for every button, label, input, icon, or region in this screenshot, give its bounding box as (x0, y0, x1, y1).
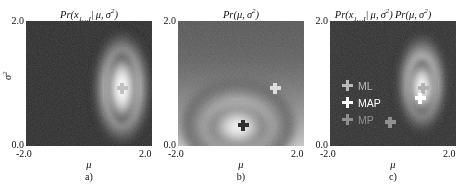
panel-c-xtick-max: 2.0 (443, 148, 456, 159)
panel-b-xtick-max: 2.0 (291, 148, 304, 159)
panel-a-x-axis-label: μ (26, 159, 152, 170)
panel-c-x-axis-label: μ (330, 159, 456, 170)
panel-a-xtick-min: -2.0 (16, 148, 32, 159)
legend-item-ml: ML (342, 77, 381, 94)
legend-item-mp: MP (342, 111, 381, 128)
legend-ml-plus-icon (342, 80, 353, 91)
panel-a-title: Pr(x1…I| μ, σ2) (6, 3, 172, 19)
legend-ml-label: ML (358, 80, 373, 92)
legend: ML MAP MP (342, 77, 381, 128)
legend-map-label: MAP (358, 97, 381, 109)
panel-a-density-field (26, 21, 152, 146)
panel-b-x-axis-label: μ (178, 159, 304, 170)
panel-a-caption: a) (26, 171, 152, 182)
panel-b-caption: b) (178, 171, 304, 182)
panel-a-y-axis-label: σ2 (1, 72, 13, 80)
panel-a-xtick-max: 2.0 (139, 148, 152, 159)
panel-c-caption: c) (330, 171, 456, 182)
panel-a-ytick-max: 2.0 (0, 15, 24, 26)
legend-mp-label: MP (358, 114, 374, 126)
panel-c-posterior-heatmap: ML MAP MP (330, 21, 456, 146)
legend-map-plus-icon (342, 97, 353, 108)
panel-c-xtick-min: -2.0 (320, 148, 336, 159)
figure-root: Pr(x1…I| μ, σ2) (0, 0, 468, 185)
legend-mp-plus-icon (342, 114, 353, 125)
panel-a-likelihood-heatmap (26, 21, 152, 146)
panel-c-ytick-max: 2.0 (304, 15, 328, 26)
panel-b-ytick-max: 2.0 (152, 15, 176, 26)
panel-b-xtick-min: -2.0 (168, 148, 184, 159)
panel-b-prior-heatmap (178, 21, 304, 146)
panel-b-density-field (178, 21, 304, 146)
legend-item-map: MAP (342, 94, 381, 111)
